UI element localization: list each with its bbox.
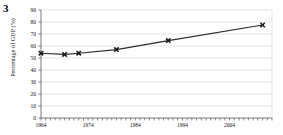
axis-lines: [41, 10, 272, 118]
figure-container: 3 Percentage of GDP (%) 0102030405060708…: [0, 0, 283, 135]
y-axis-tick-label: 80: [22, 19, 36, 25]
y-axis-tick-label: 70: [22, 31, 36, 37]
plot-canvas: [0, 0, 283, 135]
y-axis-tick-label: 20: [22, 91, 36, 97]
x-axis-tick-label: 2004: [217, 122, 243, 128]
gridlines: [41, 22, 272, 106]
y-axis-tick-label: 40: [22, 67, 36, 73]
y-axis-tick-label: 50: [22, 55, 36, 61]
y-axis-title: Percentage of GDP (%): [10, 13, 17, 83]
data-series-markers: [39, 23, 265, 57]
data-series-line: [41, 25, 263, 54]
x-axis-tick-label: 1984: [122, 122, 148, 128]
x-axis-tick-label: 1964: [28, 122, 54, 128]
x-axis-tick-label: 1994: [169, 122, 195, 128]
y-axis-tick-label: 0: [22, 115, 36, 121]
x-axis-tick-label: 1974: [75, 122, 101, 128]
line-chart: Percentage of GDP (%) 010203040506070809…: [0, 0, 283, 135]
y-axis-tick-label: 90: [22, 7, 36, 13]
y-axis-tick-label: 60: [22, 43, 36, 49]
y-axis-tick-label: 30: [22, 79, 36, 85]
y-axis-tick-label: 10: [22, 103, 36, 109]
